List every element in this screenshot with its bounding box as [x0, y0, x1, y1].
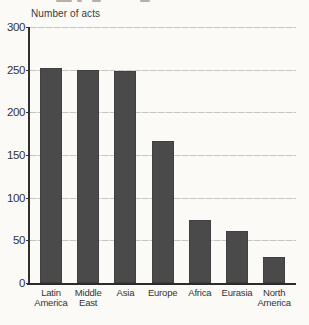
gridline-300 — [30, 27, 296, 28]
y-tick-label-150: 150 — [0, 149, 25, 161]
scanned-figure-page: Number of acts 300250200150100500LatinAm… — [0, 0, 309, 325]
plot-area: 300250200150100500LatinAmericaMiddleEast… — [0, 0, 309, 325]
y-tick-label-200: 200 — [0, 106, 25, 118]
bar-latin-america — [40, 68, 62, 283]
x-axis-label-line: America — [249, 298, 299, 308]
x-axis-label-line: East — [63, 298, 113, 308]
y-tick-label-50: 50 — [0, 234, 25, 246]
y-axis-line — [28, 27, 30, 283]
bar-asia — [114, 71, 136, 283]
y-tick-label-300: 300 — [0, 21, 25, 33]
gridline-200 — [30, 112, 296, 113]
y-tick-label-250: 250 — [0, 64, 25, 76]
bar-eurasia — [226, 231, 248, 283]
bar-north-america — [263, 257, 285, 283]
bar-africa — [189, 220, 211, 283]
x-axis-label-north-america: NorthAmerica — [249, 288, 299, 308]
y-tick-label-100: 100 — [0, 192, 25, 204]
gridline-250 — [30, 70, 296, 71]
x-axis-line — [27, 283, 296, 285]
bar-middle-east — [77, 70, 99, 283]
y-tick-label-0: 0 — [0, 277, 25, 289]
bar-europe — [152, 141, 174, 283]
